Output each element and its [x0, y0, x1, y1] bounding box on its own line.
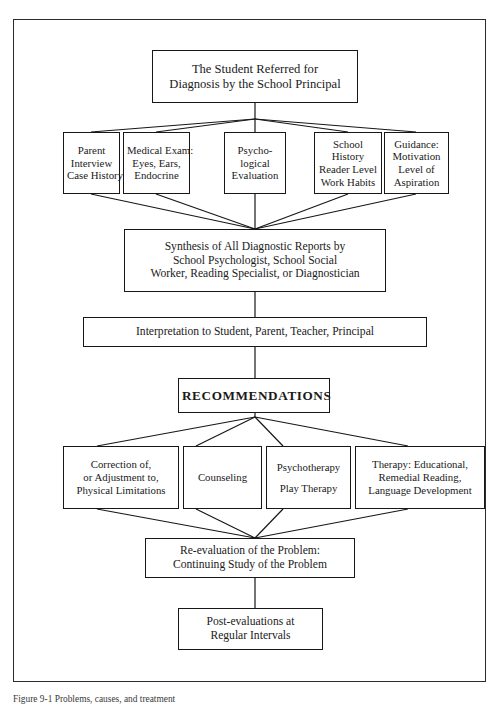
node-medical-exam-line-2: Eyes, Ears,	[127, 157, 186, 170]
node-therapy-line-1: Therapy: Educational,	[359, 458, 481, 471]
node-post-evaluations-line-2: Regular Intervals	[182, 629, 319, 643]
node-psychotherapy-line-1: Psychotherapy	[270, 461, 347, 474]
node-interpretation-line-1: Interpretation to Student, Parent, Teach…	[87, 325, 423, 339]
node-psychological-evaluation-line-1: Psycho-	[228, 144, 282, 157]
node-psychological-evaluation-line-2: logical	[228, 157, 282, 170]
node-counseling[interactable]: Counseling	[183, 446, 262, 509]
node-medical-exam-line-3: Endocrine	[127, 169, 186, 182]
node-guidance-line-3: Level of	[388, 163, 445, 176]
node-re-evaluation-line-2: Continuing Study of the Problem	[149, 558, 351, 572]
node-correction[interactable]: Correction of, or Adjustment to, Physica…	[63, 446, 179, 509]
node-guidance-line-2: Motivation	[388, 150, 445, 163]
node-school-history-line-4: Work Habits	[318, 176, 378, 189]
figure-caption: Figure 9-1 Problems, causes, and treatme…	[13, 694, 433, 705]
node-recommendations[interactable]: RECOMMENDATIONS	[178, 378, 330, 413]
node-medical-exam-line-1: Medical Exam:	[127, 144, 186, 157]
node-therapy-line-2: Remedial Reading,	[359, 471, 481, 484]
node-school-history[interactable]: School History Reader Level Work Habits	[314, 132, 382, 194]
node-guidance-line-4: Aspiration	[388, 176, 445, 189]
node-synthesis[interactable]: Synthesis of All Diagnostic Reports by S…	[124, 229, 386, 292]
node-parent-interview-line-1: Parent	[67, 144, 116, 157]
node-correction-line-2: or Adjustment to,	[67, 471, 175, 484]
node-parent-interview-line-2: Interview	[67, 157, 116, 170]
node-correction-line-3: Physical Limitations	[67, 484, 175, 497]
node-synthesis-line-3: Worker, Reading Specialist, or Diagnosti…	[128, 267, 382, 281]
node-interpretation[interactable]: Interpretation to Student, Parent, Teach…	[83, 317, 427, 347]
node-guidance[interactable]: Guidance: Motivation Level of Aspiration	[384, 132, 449, 194]
figure-page: The Student Referred for Diagnosis by th…	[0, 0, 500, 705]
node-parent-interview[interactable]: Parent Interview Case History	[63, 132, 120, 194]
node-referral-line-2: Diagnosis by the School Principal	[156, 77, 354, 92]
node-school-history-line-3: Reader Level	[318, 163, 378, 176]
node-synthesis-line-1: Synthesis of All Diagnostic Reports by	[128, 240, 382, 254]
node-school-history-line-1: School	[318, 138, 378, 151]
node-psychotherapy-gap	[270, 474, 347, 482]
node-school-history-line-2: History	[318, 150, 378, 163]
connector-lines	[0, 0, 500, 705]
node-referral-line-1: The Student Referred for	[156, 62, 354, 77]
node-referral[interactable]: The Student Referred for Diagnosis by th…	[152, 50, 358, 103]
node-synthesis-line-2: School Psychologist, School Social	[128, 254, 382, 268]
node-re-evaluation-line-1: Re-evaluation of the Problem:	[149, 544, 351, 558]
node-psychological-evaluation[interactable]: Psycho- logical Evaluation	[224, 132, 286, 194]
node-re-evaluation[interactable]: Re-evaluation of the Problem: Continuing…	[145, 538, 355, 578]
node-recommendations-line-1: RECOMMENDATIONS	[182, 388, 326, 404]
node-correction-line-1: Correction of,	[67, 458, 175, 471]
node-medical-exam[interactable]: Medical Exam: Eyes, Ears, Endocrine	[123, 132, 190, 194]
node-parent-interview-line-3: Case History	[67, 169, 116, 182]
node-post-evaluations[interactable]: Post-evaluations at Regular Intervals	[178, 608, 323, 650]
node-psychotherapy-line-2: Play Therapy	[270, 482, 347, 495]
node-therapy-line-3: Language Development	[359, 484, 481, 497]
node-therapy[interactable]: Therapy: Educational, Remedial Reading, …	[355, 446, 485, 509]
node-guidance-line-1: Guidance:	[388, 138, 445, 151]
node-psychological-evaluation-line-3: Evaluation	[228, 169, 282, 182]
node-counseling-line-1: Counseling	[187, 471, 258, 484]
node-psychotherapy[interactable]: Psychotherapy Play Therapy	[266, 446, 351, 509]
node-post-evaluations-line-1: Post-evaluations at	[182, 615, 319, 629]
